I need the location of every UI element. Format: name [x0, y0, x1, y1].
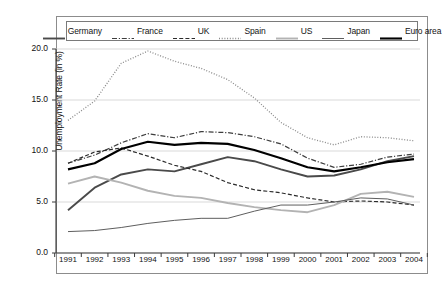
series-line-spain	[68, 51, 414, 145]
series-line-japan	[68, 198, 414, 232]
series-line-us	[68, 177, 414, 213]
series-line-euro-area	[68, 142, 414, 172]
series-line-uk	[68, 148, 414, 205]
